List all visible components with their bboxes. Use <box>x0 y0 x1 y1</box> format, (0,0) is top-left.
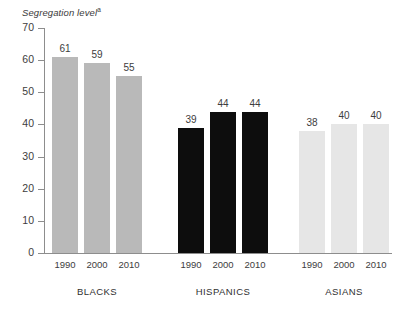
y-axis-tick <box>38 221 44 222</box>
y-axis-tick-label: 20 <box>0 182 34 194</box>
y-axis-title: Segregation levela <box>22 6 101 18</box>
group-label: ASIANS <box>299 286 389 297</box>
bar <box>299 131 325 253</box>
y-axis-tick-label: 0 <box>0 246 34 258</box>
bar <box>52 57 78 253</box>
y-axis-tick <box>38 157 44 158</box>
bar <box>178 128 204 253</box>
y-axis-line <box>44 28 45 254</box>
y-axis-title-text: Segregation level <box>22 7 97 18</box>
y-axis-tick-label: 60 <box>0 53 34 65</box>
group-label: HISPANICS <box>178 286 268 297</box>
y-axis-tick <box>38 60 44 61</box>
bar-value-label: 39 <box>171 114 211 125</box>
bar-value-label: 40 <box>356 110 396 121</box>
y-axis-tick <box>38 124 44 125</box>
x-axis-line <box>44 253 392 254</box>
y-axis-tick-label: 50 <box>0 85 34 97</box>
y-axis-tick <box>38 253 44 254</box>
y-axis-tick <box>38 92 44 93</box>
y-axis-tick <box>38 28 44 29</box>
segregation-level-bar-chart: Segregation levela 706050403020100 61595… <box>0 0 411 316</box>
y-axis-tick-label: 10 <box>0 214 34 226</box>
group-label: BLACKS <box>52 286 142 297</box>
y-axis-title-superscript: a <box>97 6 101 13</box>
x-axis-year-label: 2010 <box>354 259 398 270</box>
x-axis-year-label: 2010 <box>233 259 277 270</box>
y-axis-tick-label: 40 <box>0 117 34 129</box>
bar <box>242 112 268 253</box>
bar-value-label: 44 <box>235 98 275 109</box>
bar <box>210 112 236 253</box>
y-axis-tick-label: 70 <box>0 21 34 33</box>
y-axis-tick-label: 30 <box>0 150 34 162</box>
bar <box>331 124 357 253</box>
bar <box>363 124 389 253</box>
bar-value-label: 59 <box>77 49 117 60</box>
bar <box>116 76 142 253</box>
x-axis-year-label: 2010 <box>107 259 151 270</box>
bar-value-label: 55 <box>109 62 149 73</box>
bar <box>84 63 110 253</box>
y-axis-tick <box>38 189 44 190</box>
